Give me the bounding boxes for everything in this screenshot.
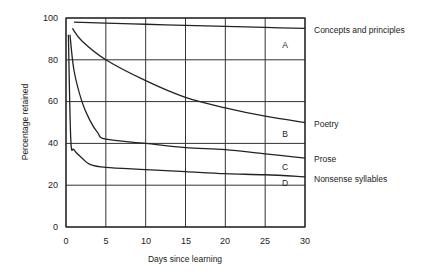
y-tick-40: 40 [48,138,58,148]
x-tick-30: 30 [300,236,310,246]
y-tick-60: 60 [48,96,58,106]
y-axis-label: Percentage retained [20,83,30,160]
y-tick-20: 20 [48,180,58,190]
retention-chart: 0 20 40 60 80 100 0 5 10 15 20 25 30 Day… [0,0,433,280]
grid [66,18,305,227]
series-label-nonsense: Nonsense syllables [314,174,387,184]
y-tick-80: 80 [48,55,58,65]
series-label-concepts: Concepts and principles [314,25,405,35]
series-labels: Concepts and principles Poetry Prose Non… [314,25,405,184]
region-label-c: C [282,162,288,172]
x-tick-5: 5 [103,236,108,246]
curves [68,22,305,177]
x-tick-10: 10 [141,236,151,246]
series-curve-c [70,35,305,158]
series-curve-b [72,28,305,122]
series-curve-a [74,22,305,28]
y-tick-100: 100 [43,13,58,23]
series-curve-d [68,35,305,177]
region-labels: A B C D [282,40,288,188]
series-label-prose: Prose [314,154,336,164]
x-axis-label: Days since learning [148,254,222,264]
x-tick-labels: 0 5 10 15 20 25 30 [63,236,310,246]
x-tick-20: 20 [220,236,230,246]
y-tick-0: 0 [53,222,58,232]
region-label-d: D [282,178,288,188]
y-tick-labels: 0 20 40 60 80 100 [43,13,58,232]
x-tick-25: 25 [260,236,270,246]
x-tick-0: 0 [63,236,68,246]
region-label-a: A [282,40,288,50]
series-label-poetry: Poetry [314,119,339,129]
x-tick-15: 15 [181,236,191,246]
region-label-b: B [282,129,288,139]
